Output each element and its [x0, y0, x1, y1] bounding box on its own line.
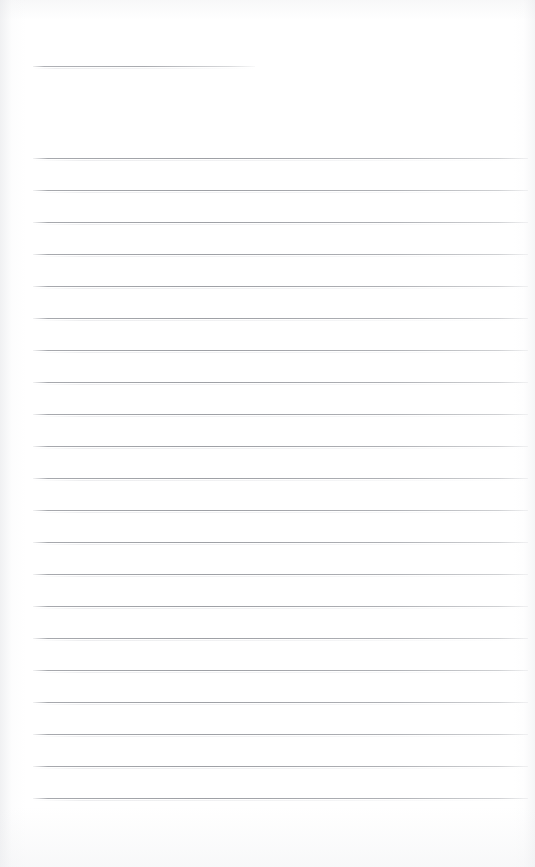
- writing-rule: [33, 222, 528, 223]
- writing-rule: [33, 254, 528, 255]
- writing-rule-ghost: [33, 480, 528, 481]
- writing-rule-ghost: [33, 288, 528, 289]
- writing-rule-ghost: [33, 736, 528, 737]
- writing-rule: [33, 350, 528, 351]
- writing-rule: [33, 510, 528, 511]
- writing-rule-ghost: [33, 800, 528, 801]
- writing-rule-ghost: [33, 384, 528, 385]
- writing-rule: [33, 414, 528, 415]
- writing-rule-ghost: [33, 704, 528, 705]
- writing-rule: [33, 734, 528, 735]
- writing-rule-ghost: [33, 224, 528, 225]
- writing-rule: [33, 446, 528, 447]
- writing-rule-ghost: [33, 352, 528, 353]
- writing-rule-ghost: [33, 544, 528, 545]
- writing-rule-ghost: [33, 256, 528, 257]
- writing-rule: [33, 798, 528, 799]
- notepad-page: [0, 0, 535, 867]
- writing-rule: [33, 478, 528, 479]
- writing-rule: [33, 638, 528, 639]
- writing-rule-ghost: [33, 448, 528, 449]
- page-edge-shadow-bottom: [0, 807, 535, 867]
- writing-rule-ghost: [33, 192, 528, 193]
- writing-rule: [33, 766, 528, 767]
- writing-rule-ghost: [33, 416, 528, 417]
- writing-rule-ghost: [33, 768, 528, 769]
- writing-rule: [33, 286, 528, 287]
- writing-rule-ghost: [33, 672, 528, 673]
- writing-rule: [33, 542, 528, 543]
- writing-rule: [33, 606, 528, 607]
- page-edge-shadow-top: [0, 0, 535, 20]
- writing-rule-ghost: [33, 576, 528, 577]
- writing-rule: [33, 382, 528, 383]
- title-rule-ghost: [33, 68, 255, 69]
- writing-rule-ghost: [33, 512, 528, 513]
- writing-rule: [33, 670, 528, 671]
- writing-rule-ghost: [33, 160, 528, 161]
- writing-rule: [33, 702, 528, 703]
- writing-rule: [33, 158, 528, 159]
- writing-rule-ghost: [33, 608, 528, 609]
- writing-rule: [33, 190, 528, 191]
- writing-rule: [33, 318, 528, 319]
- title-rule: [33, 66, 255, 67]
- writing-rule: [33, 574, 528, 575]
- page-edge-shadow-left: [0, 0, 26, 867]
- writing-rule-ghost: [33, 320, 528, 321]
- writing-rule-ghost: [33, 640, 528, 641]
